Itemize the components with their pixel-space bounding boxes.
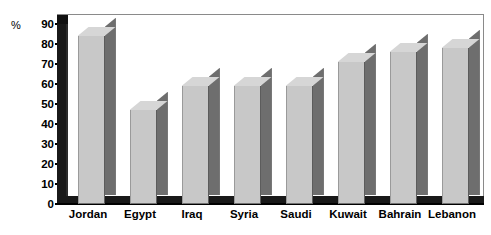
bar-front-face bbox=[442, 48, 469, 204]
bar-side-face bbox=[469, 30, 480, 195]
x-axis-tick-label: Egypt bbox=[114, 208, 166, 221]
bar-side-face bbox=[417, 34, 428, 195]
bar-side-face bbox=[365, 44, 376, 195]
bar-syria[interactable] bbox=[234, 77, 272, 204]
x-axis-tick-label: Iraq bbox=[166, 208, 218, 221]
bar-kuwait[interactable] bbox=[338, 53, 376, 204]
x-axis-baseline bbox=[57, 204, 484, 205]
bar-bahrain[interactable] bbox=[390, 43, 428, 204]
y-axis-tick-label: 10 bbox=[32, 179, 54, 190]
bar-jordan[interactable] bbox=[78, 27, 116, 204]
bar-front-face bbox=[338, 62, 365, 204]
y-axis-tick-label: 40 bbox=[32, 119, 54, 130]
chart-left-wall-top bbox=[57, 15, 68, 24]
bar-front-face bbox=[390, 52, 417, 204]
x-axis-tick-label: Saudi bbox=[270, 208, 322, 221]
y-axis-tick-label: 30 bbox=[32, 139, 54, 150]
bar-side-face bbox=[313, 68, 324, 195]
bar-side-face bbox=[261, 68, 272, 195]
bar-chart: % 9080706050403020100 JordanEgyptIraqSyr… bbox=[0, 0, 491, 235]
bar-iraq[interactable] bbox=[182, 77, 220, 204]
y-axis-tick-label: 50 bbox=[32, 99, 54, 110]
x-axis-tick-label: Syria bbox=[218, 208, 270, 221]
bar-egypt[interactable] bbox=[130, 101, 168, 204]
y-axis-tick-label: 60 bbox=[32, 79, 54, 90]
bar-lebanon[interactable] bbox=[442, 39, 480, 204]
x-axis-tick-label: Jordan bbox=[62, 208, 114, 221]
bar-front-face bbox=[130, 110, 157, 204]
y-axis-tick-label: 80 bbox=[32, 39, 54, 50]
y-axis-tick-label: 70 bbox=[32, 59, 54, 70]
x-axis-tick-label: Lebanon bbox=[426, 208, 478, 221]
bar-front-face bbox=[182, 86, 209, 204]
bar-front-face bbox=[286, 86, 313, 204]
y-axis-unit-label: % bbox=[11, 19, 21, 31]
y-axis-tick-label: 20 bbox=[32, 159, 54, 170]
bar-side-face bbox=[105, 18, 116, 195]
bar-saudi[interactable] bbox=[286, 77, 324, 204]
y-axis-tick-label: 0 bbox=[32, 199, 54, 210]
bar-side-face bbox=[209, 68, 220, 195]
bar-series bbox=[68, 24, 484, 204]
x-axis-tick-label: Bahrain bbox=[374, 208, 426, 221]
x-axis-tick-label: Kuwait bbox=[322, 208, 374, 221]
bar-front-face bbox=[78, 36, 105, 204]
y-axis-tick-label: 90 bbox=[32, 19, 54, 30]
bar-front-face bbox=[234, 86, 261, 204]
